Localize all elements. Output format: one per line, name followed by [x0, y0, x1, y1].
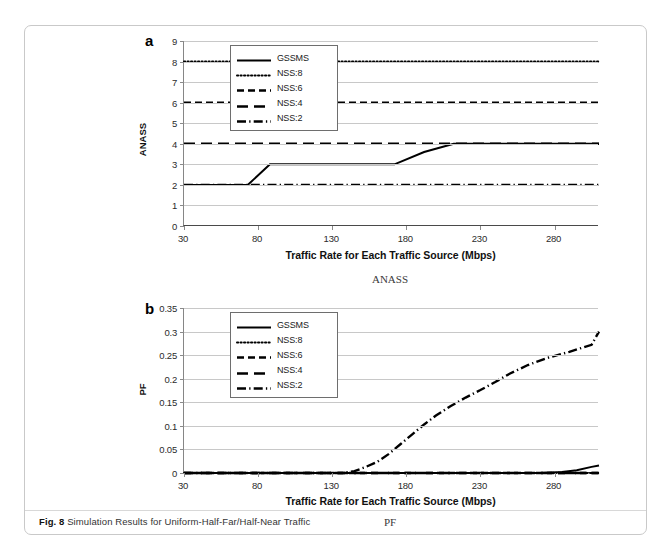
x-tick-mark: [555, 473, 556, 477]
y-tick-label: 3: [137, 159, 177, 170]
legend-item-nss4[interactable]: NSS:4: [236, 363, 331, 378]
y-tick-label: 7: [137, 77, 177, 88]
x-tick-mark: [406, 226, 407, 230]
x-tick-mark: [332, 226, 333, 230]
legend-label: NSS:4: [277, 365, 302, 375]
y-tick-label: 2: [137, 179, 177, 190]
legend-item-gssms[interactable]: GSSMS: [236, 50, 331, 65]
legend-label: NSS:6: [277, 350, 302, 360]
y-tick-mark: [180, 144, 184, 145]
y-tick-mark: [180, 449, 184, 450]
legend-label: NSS:2: [277, 113, 302, 123]
legend-swatch-dashdot: [236, 113, 272, 124]
x-tick-label: 80: [237, 480, 277, 491]
legend-item-nss6[interactable]: NSS:6: [236, 80, 331, 95]
gridline: [184, 426, 598, 427]
legend-item-nss4[interactable]: NSS:4: [236, 96, 331, 111]
legend-swatch-solid: [236, 319, 272, 330]
legend-swatch-solid: [236, 52, 272, 63]
y-tick-mark: [180, 426, 184, 427]
y-tick-mark: [180, 41, 184, 42]
legend-label: NSS:8: [277, 68, 302, 78]
y-tick-mark: [180, 62, 184, 63]
panel-b-x-axis-title: Traffic Rate for Each Traffic Source (Mb…: [183, 495, 598, 507]
legend-swatch-longdash: [236, 98, 272, 109]
legend-swatch-longdash: [236, 365, 272, 376]
caption-figure-number: Fig. 8: [39, 516, 64, 527]
legend-swatch-dotted: [236, 334, 272, 345]
y-tick-label: 0.2: [137, 373, 177, 384]
x-tick-label: 130: [311, 233, 351, 244]
x-tick-mark: [480, 226, 481, 230]
x-tick-mark: [258, 473, 259, 477]
x-tick-label: 230: [459, 233, 499, 244]
y-tick-mark: [180, 205, 184, 206]
gridline: [184, 144, 598, 145]
x-tick-mark: [406, 473, 407, 477]
y-tick-mark: [180, 185, 184, 186]
x-tick-mark: [555, 226, 556, 230]
x-tick-label: 180: [385, 480, 425, 491]
legend-item-nss2[interactable]: NSS:2: [236, 378, 331, 393]
y-tick-label: 6: [137, 97, 177, 108]
panel-b: b PF Traffic Rate for Each Traffic Sourc…: [25, 292, 646, 512]
y-tick-mark: [180, 355, 184, 356]
x-tick-mark: [258, 226, 259, 230]
x-tick-mark: [480, 473, 481, 477]
x-tick-mark: [332, 473, 333, 477]
legend-item-nss8[interactable]: NSS:8: [236, 332, 331, 347]
caption-text: Simulation Results for Uniform-Half-Far/…: [67, 516, 310, 527]
y-tick-label: 1: [137, 200, 177, 211]
figure-frame: a ANASS Traffic Rate for Each Traffic So…: [24, 25, 647, 535]
y-tick-mark: [180, 103, 184, 104]
gridline: [184, 449, 598, 450]
legend-label: NSS:2: [277, 380, 302, 390]
y-tick-mark: [180, 164, 184, 165]
gridline: [184, 164, 598, 165]
legend-label: NSS:6: [277, 83, 302, 93]
y-tick-label: 0.1: [137, 420, 177, 431]
legend-label: NSS:4: [277, 98, 302, 108]
legend-swatch-dotted: [236, 67, 272, 78]
legend-label: GSSMS: [277, 320, 309, 330]
y-tick-mark: [180, 82, 184, 83]
legend-label: NSS:8: [277, 335, 302, 345]
legend-item-nss2[interactable]: NSS:2: [236, 111, 331, 126]
y-tick-mark: [180, 332, 184, 333]
y-tick-mark: [180, 308, 184, 309]
x-tick-mark: [184, 473, 185, 477]
x-tick-label: 280: [534, 480, 574, 491]
gridline: [184, 185, 598, 186]
panel-a-x-axis-title: Traffic Rate for Each Traffic Source (Mb…: [183, 249, 598, 261]
x-tick-label: 180: [385, 233, 425, 244]
legend-item-nss8[interactable]: NSS:8: [236, 65, 331, 80]
legend-item-nss6[interactable]: NSS:6: [236, 347, 331, 362]
gridline: [184, 205, 598, 206]
x-tick-label: 230: [459, 480, 499, 491]
panel-a-legend: GSSMSNSS:8NSS:6NSS:4NSS:2: [230, 45, 338, 131]
y-tick-label: 0.35: [137, 303, 177, 314]
x-tick-label: 30: [163, 480, 203, 491]
y-tick-label: 0.3: [137, 326, 177, 337]
x-tick-label: 130: [311, 480, 351, 491]
y-tick-label: 9: [137, 36, 177, 47]
figure-caption: Fig. 8 Simulation Results for Uniform-Ha…: [39, 515, 636, 528]
legend-swatch-dashdot: [236, 380, 272, 391]
legend-item-gssms[interactable]: GSSMS: [236, 317, 331, 332]
y-tick-mark: [180, 379, 184, 380]
legend-swatch-dashed: [236, 349, 272, 360]
x-tick-label: 280: [534, 233, 574, 244]
x-tick-label: 30: [163, 233, 203, 244]
y-tick-mark: [180, 402, 184, 403]
gridline: [184, 41, 598, 42]
y-tick-label: 0.05: [137, 444, 177, 455]
panel-b-legend: GSSMSNSS:8NSS:6NSS:4NSS:2: [230, 312, 338, 398]
y-tick-label: 4: [137, 138, 177, 149]
legend-swatch-dashed: [236, 82, 272, 93]
y-tick-label: 0: [137, 221, 177, 232]
y-tick-label: 0.15: [137, 397, 177, 408]
y-tick-label: 0: [137, 468, 177, 479]
caption-divider: [25, 510, 646, 511]
x-tick-label: 80: [237, 233, 277, 244]
x-tick-mark: [184, 226, 185, 230]
